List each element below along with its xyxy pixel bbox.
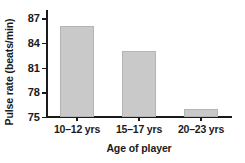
- x-tick-label: 15–17 yrs: [116, 123, 162, 135]
- y-tick-mark: [42, 68, 47, 69]
- y-tick-label: 87: [28, 13, 40, 24]
- y-tick-label: 78: [28, 87, 40, 98]
- y-tick-mark: [42, 117, 47, 118]
- plot-area: 7578818487 10–12 yrs15–17 yrs20–23 yrs: [46, 10, 232, 117]
- y-tick-label: 81: [28, 62, 40, 73]
- pulse-rate-bar-chart: Pulse rate (beats/min) 7578818487 10–12 …: [0, 0, 245, 163]
- x-tick-mark: [76, 117, 77, 121]
- y-tick-label: 75: [28, 112, 40, 123]
- x-axis-title: Age of player: [46, 142, 232, 154]
- y-tick-mark: [42, 92, 47, 93]
- y-axis-title: Pulse rate (beats/min): [2, 12, 16, 132]
- bar: [60, 26, 94, 117]
- x-tick-label: 10–12 yrs: [54, 123, 100, 135]
- y-tick-mark: [42, 18, 47, 19]
- y-tick-label: 84: [28, 37, 40, 48]
- x-tick-mark: [138, 117, 139, 121]
- x-tick-label: 20–23 yrs: [178, 123, 224, 135]
- bar: [122, 51, 156, 117]
- y-axis-line: [46, 10, 48, 117]
- x-tick-mark: [200, 117, 201, 121]
- bar: [184, 109, 218, 117]
- y-tick-mark: [42, 43, 47, 44]
